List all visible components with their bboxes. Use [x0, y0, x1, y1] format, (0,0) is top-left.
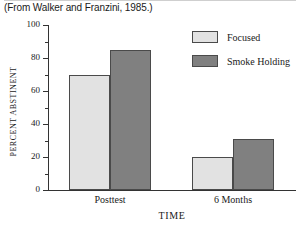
y-tick-minor — [45, 75, 49, 76]
page-crop-rule — [4, 0, 296, 1]
y-tick-label: 60 — [18, 86, 40, 95]
bar — [233, 139, 274, 190]
bar — [110, 50, 151, 190]
y-tick-major — [43, 157, 49, 158]
legend-swatch — [192, 31, 218, 43]
bar — [69, 75, 110, 191]
y-axis-title: PERCENT ABSTINENT — [9, 47, 18, 177]
y-tick-major — [43, 25, 49, 26]
x-tick-label: Posttest — [69, 194, 151, 205]
y-tick-label: 100 — [18, 20, 40, 29]
y-tick-label: 20 — [18, 152, 40, 161]
x-axis-title: TIME — [48, 210, 296, 221]
legend-item: Smoke Holding — [192, 49, 290, 73]
y-tick-label: 40 — [18, 119, 40, 128]
y-tick-minor — [45, 108, 49, 109]
legend: FocusedSmoke Holding — [192, 25, 290, 73]
y-tick-major — [43, 190, 49, 191]
source-caption: (From Walker and Franzini, 1985.) — [4, 2, 153, 13]
y-tick-minor — [45, 42, 49, 43]
bar — [192, 157, 233, 190]
y-tick-minor — [45, 141, 49, 142]
figure-bar-chart: (From Walker and Franzini, 1985.) 020406… — [0, 0, 302, 227]
y-tick-major — [43, 58, 49, 59]
x-axis-line — [48, 190, 296, 191]
legend-label: Smoke Holding — [227, 56, 290, 67]
y-tick-major — [43, 124, 49, 125]
y-tick-major — [43, 91, 49, 92]
y-tick-label: 80 — [18, 53, 40, 62]
y-tick-minor — [45, 174, 49, 175]
x-tick-label: 6 Months — [192, 194, 274, 205]
legend-label: Focused — [227, 32, 260, 43]
legend-swatch — [192, 55, 218, 67]
legend-item: Focused — [192, 25, 290, 49]
y-tick-label: 0 — [18, 185, 40, 194]
